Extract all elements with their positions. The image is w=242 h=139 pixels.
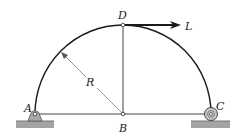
ground-right <box>191 121 230 128</box>
ground-left <box>16 121 54 128</box>
joint-A <box>33 112 37 116</box>
joint-B <box>121 112 125 116</box>
label-L: L <box>184 20 192 33</box>
label-B: B <box>118 122 127 135</box>
joint-D <box>121 23 125 27</box>
arch-diagram: R L A C B D <box>0 0 242 139</box>
joint-C <box>210 113 213 116</box>
label-D: D <box>117 9 127 22</box>
label-C: C <box>216 100 225 113</box>
label-R: R <box>85 76 94 89</box>
label-A: A <box>23 102 32 115</box>
